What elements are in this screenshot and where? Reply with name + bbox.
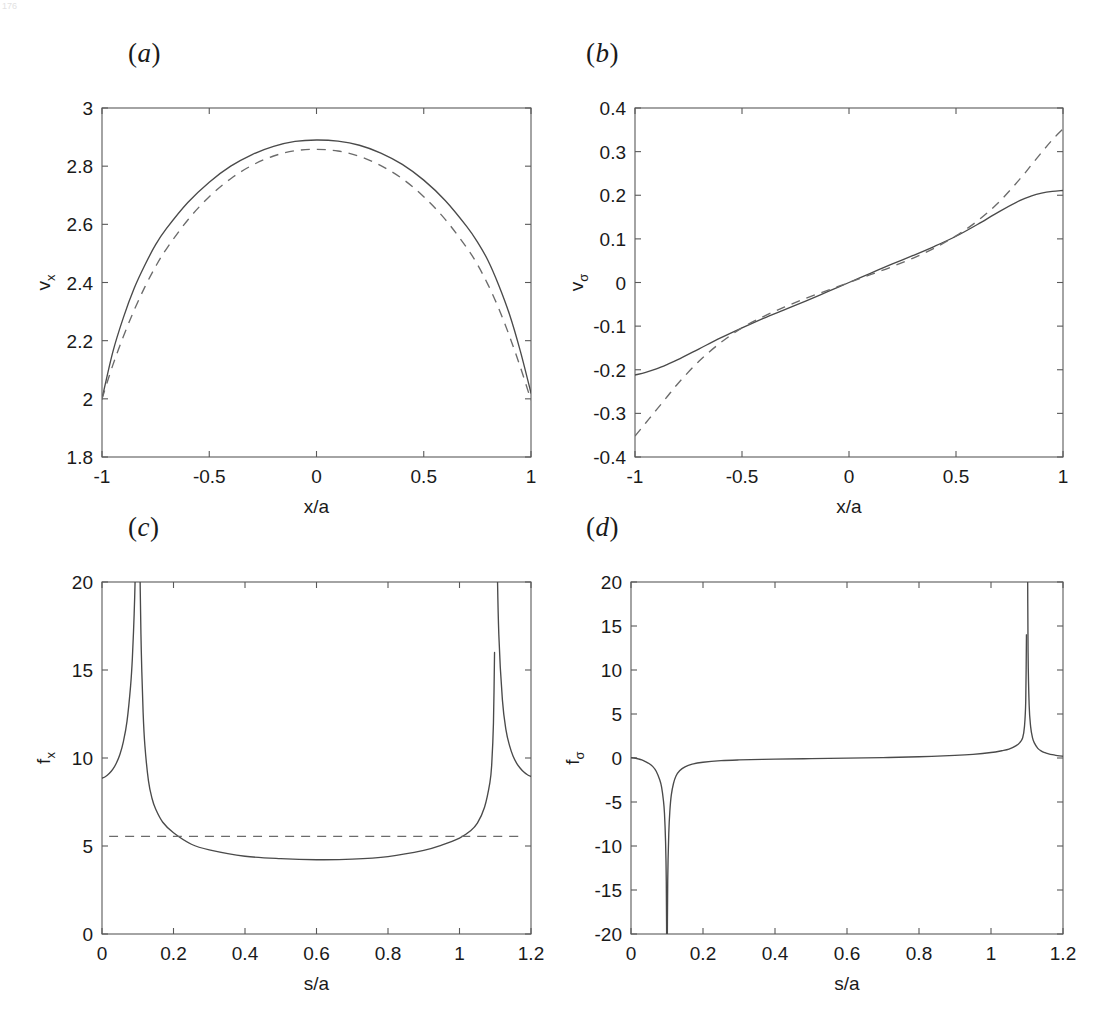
- y-tick-label: 0.2: [600, 185, 626, 206]
- y-tick-label: 0.1: [600, 229, 626, 250]
- y-tick-label: 0: [615, 273, 626, 294]
- y-tick-label: 2: [82, 389, 93, 410]
- chart-panel-b: -1-0.500.51-0.4-0.3-0.2-0.100.10.20.30.4…: [565, 90, 1089, 531]
- x-tick-label: 0.2: [160, 943, 186, 964]
- y-tick-label: -15: [595, 880, 622, 901]
- x-tick-label: 0: [97, 943, 108, 964]
- y-tick-label: 3: [82, 98, 93, 119]
- x-axis-title: s/a: [834, 973, 860, 994]
- y-axis-title: vx: [33, 274, 58, 291]
- axes-frame: [102, 582, 531, 934]
- y-tick-label: 15: [72, 660, 93, 681]
- y-tick-label: 20: [601, 572, 622, 593]
- panel-label-d: (d): [586, 512, 619, 543]
- y-axis-title: fσ: [562, 751, 587, 764]
- panel-label-a: (a): [128, 38, 161, 69]
- y-tick-label: 10: [601, 660, 622, 681]
- y-tick-label: 2.2: [67, 331, 93, 352]
- x-tick-label: 0: [844, 466, 855, 487]
- y-tick-label: -0.3: [593, 403, 626, 424]
- x-tick-label: 0.6: [303, 943, 329, 964]
- y-tick-label: 5: [611, 704, 622, 725]
- y-tick-label: 2.6: [67, 214, 93, 235]
- y-tick-label: 2.8: [67, 156, 93, 177]
- y-tick-label: 15: [601, 616, 622, 637]
- axes-frame: [102, 108, 531, 457]
- y-tick-label: -0.2: [593, 360, 626, 381]
- y-tick-label: -10: [595, 836, 622, 857]
- y-tick-label: 0: [611, 748, 622, 769]
- x-tick-label: 1.2: [518, 943, 544, 964]
- x-tick-label: -1: [627, 466, 644, 487]
- x-tick-label: 1: [526, 466, 537, 487]
- y-tick-label: -0.1: [593, 316, 626, 337]
- x-tick-label: 0: [311, 466, 322, 487]
- series-solid: [635, 190, 1063, 375]
- x-tick-label: 0: [626, 943, 637, 964]
- figure-canvas: 176 (a)-1-0.500.511.822.22.42.62.83x/avx…: [0, 0, 1112, 1010]
- x-axis-title: x/a: [836, 496, 862, 517]
- x-tick-label: 0.5: [411, 466, 437, 487]
- x-axis-title: x/a: [304, 496, 330, 517]
- y-tick-label: 0: [82, 924, 93, 945]
- x-tick-label: 1: [454, 943, 465, 964]
- x-tick-label: -0.5: [726, 466, 759, 487]
- series-solid-main: [667, 635, 1026, 969]
- x-tick-label: 0.8: [906, 943, 932, 964]
- series-solid: [102, 140, 531, 399]
- y-axis-title: fx: [33, 752, 58, 764]
- x-tick-label: 0.5: [943, 466, 969, 487]
- x-tick-label: 0.2: [690, 943, 716, 964]
- chart-panel-c: 00.20.40.60.811.205101520s/afx: [32, 564, 557, 1008]
- series-dashed: [102, 149, 531, 400]
- x-tick-label: -1: [94, 466, 111, 487]
- x-tick-label: 1: [986, 943, 997, 964]
- y-tick-label: 5: [82, 836, 93, 857]
- series-solid-right: [1028, 547, 1063, 756]
- x-tick-label: 1: [1058, 466, 1069, 487]
- x-tick-label: 1.2: [1050, 943, 1076, 964]
- y-tick-label: 1.8: [67, 447, 93, 468]
- x-tick-label: 0.4: [762, 943, 789, 964]
- y-tick-label: 10: [72, 748, 93, 769]
- x-axis-title: s/a: [304, 973, 330, 994]
- y-tick-label: -20: [595, 924, 622, 945]
- panel-label-c: (c): [128, 512, 159, 543]
- y-tick-label: 0.4: [600, 98, 627, 119]
- y-tick-label: -5: [605, 792, 622, 813]
- x-tick-label: 0.4: [232, 943, 259, 964]
- y-tick-label: 2.4: [67, 273, 94, 294]
- page-corner-mark: 176: [2, 1, 17, 11]
- y-tick-label: -0.4: [593, 447, 626, 468]
- series-solid-left: [631, 758, 667, 970]
- x-tick-label: -0.5: [193, 466, 226, 487]
- chart-panel-d: 00.20.40.60.811.2-20-15-10-505101520s/af…: [561, 564, 1089, 1008]
- y-tick-label: 20: [72, 572, 93, 593]
- chart-panel-a: -1-0.500.511.822.22.42.62.83x/avx: [32, 90, 557, 531]
- panel-label-b: (b): [586, 38, 619, 69]
- y-tick-label: 0.3: [600, 142, 626, 163]
- x-tick-label: 0.6: [834, 943, 860, 964]
- x-tick-label: 0.8: [375, 943, 401, 964]
- y-axis-title: vσ: [566, 274, 591, 292]
